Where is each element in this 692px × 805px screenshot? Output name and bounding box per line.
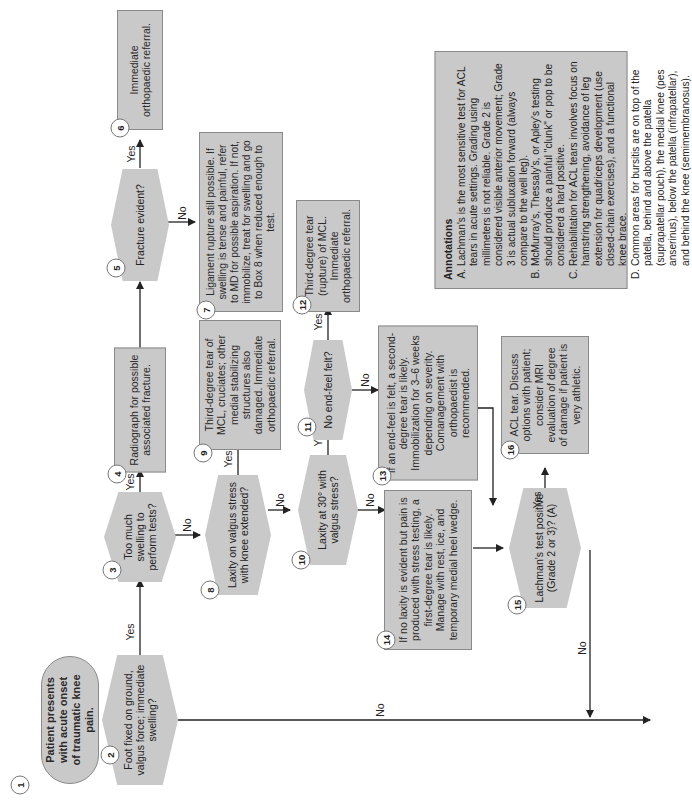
annotations-list: Lachman's is the most sensitive test for… <box>455 60 691 280</box>
node-1-start: Patient presents with acute onset of tra… <box>41 656 99 784</box>
node-16-number-badge: 16 <box>501 441 520 460</box>
node-8-text: Laxity on valgus stress with knee extend… <box>226 479 250 591</box>
node-8-decision: Laxity on valgus stress with knee extend… <box>205 475 271 595</box>
node-11-number-badge: 11 <box>298 418 317 437</box>
node-15-text: Lachman's test positive (Grade 2 or 3)? … <box>533 492 557 604</box>
node-3-text: Too much swelling to perform tests? <box>122 496 158 578</box>
annotation-b: McMurray's, Thessaly's, or Apley's testi… <box>530 60 567 266</box>
node-7-text: Ligament rupture still possible. If swel… <box>205 139 278 305</box>
node-15-number-badge: 15 <box>508 596 527 615</box>
annotation-c: Rehabilitation for ACL tears involves fo… <box>567 60 629 266</box>
node-6-number-badge: 6 <box>111 119 130 138</box>
node-10-decision: Laxity at 30° with valgus stress? <box>298 455 358 565</box>
node-1-text: Patient presents with acute onset of tra… <box>44 671 96 769</box>
edge-label-15-yes: Yes <box>531 491 543 508</box>
edge-label-10-no: No <box>364 493 376 506</box>
annotations-heading: Annotations <box>442 60 455 280</box>
edge-label-8-no: No <box>274 493 286 506</box>
annotation-a: Lachman's is the most sensitive test for… <box>455 60 530 266</box>
node-9-action: Third-degree tear of MCL, cruciates; oth… <box>199 320 281 450</box>
node-16-text: ACL tear. Discuss options with patient; … <box>508 343 582 447</box>
edge-label-11-yes: Yes <box>312 313 324 330</box>
node-12-text: Third-degree tear (rupture) of MCL. Imme… <box>303 207 353 305</box>
node-9-number-badge: 9 <box>194 444 213 463</box>
node-13-action: If an end-feel is felt, a second-degree … <box>378 326 478 481</box>
node-13-text: If an end-feel is felt, a second-degree … <box>385 333 472 474</box>
node-6-text: Immediate orthopaedic referral. <box>128 17 153 123</box>
node-7-number-badge: 7 <box>197 301 216 320</box>
node-3-number-badge: 3 <box>103 561 122 580</box>
node-12-number-badge: 12 <box>293 296 312 315</box>
node-8-number-badge: 8 <box>201 581 220 600</box>
annotations-panel: Annotations Lachman's is the most sensit… <box>435 51 628 289</box>
node-5-number-badge: 5 <box>107 259 126 278</box>
edge-label-3-no: No <box>181 518 193 531</box>
node-4-text: Radiograph for possible associated fract… <box>128 355 153 466</box>
node-5-text: Fracture evident? <box>134 184 146 266</box>
annotation-d: Common areas for bursitis are on top of … <box>629 60 691 266</box>
edge-label-2-no: No <box>374 703 386 716</box>
node-14-text: If no laxity is evident but pain is prod… <box>397 497 459 643</box>
edge-label-2-yes: Yes <box>124 623 136 640</box>
node-11-text: No end-feel felt? <box>322 351 334 428</box>
edge-label-15-no: No <box>576 641 588 654</box>
node-10-text: Laxity at 30° with valgus stress? <box>316 459 340 561</box>
edge-label-11-no: No <box>359 373 371 386</box>
node-14-action: If no laxity is evident but pain is prod… <box>384 490 472 650</box>
node-6-action: Immediate orthopaedic referral. <box>117 10 163 130</box>
node-14-number-badge: 14 <box>377 631 396 650</box>
node-12-action: Third-degree tear (rupture) of MCL. Imme… <box>296 200 360 312</box>
node-13-number-badge: 13 <box>373 467 392 486</box>
node-4-action: Radiograph for possible associated fract… <box>114 348 166 473</box>
edge-label-5-no: No <box>176 206 188 219</box>
node-7-action: Ligament rupture still possible. If swel… <box>199 132 283 312</box>
edge-label-8-yes: Yes <box>222 450 234 467</box>
node-2-decision: Foot fixed on ground, valgus force; imme… <box>102 655 178 785</box>
node-15-decision: Lachman's test positive (Grade 2 or 3)? … <box>509 488 581 608</box>
node-1-number-badge: 1 <box>11 776 30 795</box>
node-9-text: Third-degree tear of MCL, cruciates; oth… <box>203 327 277 443</box>
node-10-number-badge: 10 <box>292 551 311 570</box>
node-2-number-badge: 2 <box>101 746 120 765</box>
node-4-number-badge: 4 <box>108 465 127 484</box>
node-2-text: Foot fixed on ground, valgus force; imme… <box>122 659 158 781</box>
node-16-action: ACL tear. Discuss options with patient; … <box>501 336 589 454</box>
edge-label-5-yes: Yes <box>125 145 137 162</box>
